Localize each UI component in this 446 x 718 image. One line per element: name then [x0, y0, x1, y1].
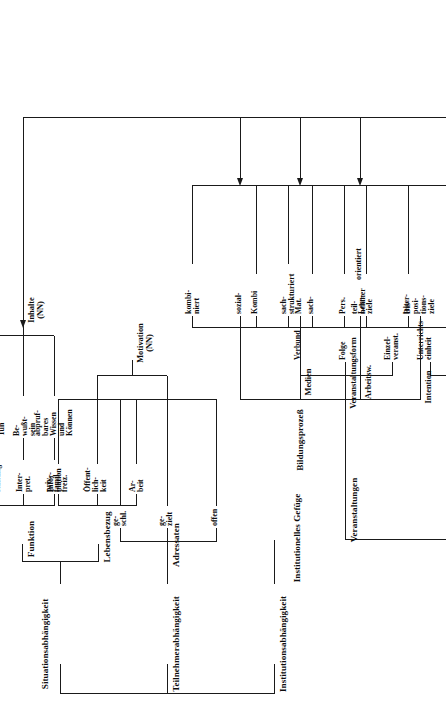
intention-leaf-2 [420, 316, 421, 328]
leaf-arbeitsweise-teilnehmer: teil- nehmer [351, 288, 367, 314]
gefuege-spine [345, 539, 446, 540]
lebensbezug-box-run-2 [97, 400, 98, 464]
sozialform-box-run-3 [192, 186, 193, 264]
node-funktion: Funktion [27, 504, 36, 574]
feedback-arrow-head-3 [357, 178, 363, 186]
node-veranstaltungen: Veranstaltungen [350, 460, 359, 560]
funktion-run-1 [54, 438, 55, 460]
leaf-sozialform-kombiniert: kombi- niert [185, 290, 201, 314]
node-intention: Intention [425, 352, 434, 422]
leaf-funktion-gestaltung: Ge- staltung [0, 465, 2, 492]
veranstaltungsform-leaf-1 [392, 362, 393, 376]
leaf-medien-pers: Pers. [339, 297, 347, 314]
adressaten-box-run-1 [216, 400, 217, 506]
arbeitsweise-leaf-1 [408, 316, 409, 328]
leaf-adressaten-gezielt: ge- zielt [158, 512, 174, 526]
feedback-arrow-line-4 [300, 118, 301, 178]
adressaten-box-run-3 [120, 400, 121, 506]
link-adressaten [167, 542, 168, 584]
lebensbezug-leaf-2 [97, 494, 98, 506]
bildungsprozess-branch-intention [420, 386, 421, 400]
leaf-sozialform-sozial: sozial- [235, 293, 243, 314]
leaf-lebensbezug-oeffentlichkeit: Öffent- lich- keit [84, 467, 108, 492]
arbeitsweise-box-run-1 [408, 186, 409, 274]
node-veranstaltungsform: Veranstaltungsform [350, 318, 359, 428]
node-teilnehmerabhaengigkeit: Teilnehmerabhängigkeit [172, 584, 181, 704]
veranstaltungsform-bracket [300, 375, 392, 376]
medien-run [300, 328, 301, 386]
medien-leaf-1 [344, 316, 345, 328]
diagram-canvas: Institutionsabhängigkeit Teilnehmerabhän… [0, 0, 446, 718]
motivation-out-lebensbezug [97, 376, 98, 400]
funktion-leaf-2 [23, 494, 24, 506]
situation-branch-funktion [22, 544, 23, 562]
adressaten-box-run-2 [167, 400, 168, 506]
leaf-inhalte-bewusstsein: Be- wußt- sein [13, 416, 37, 436]
leaf-inhalte-kreatives: Krea- tives Tun [0, 416, 6, 436]
motivation-out-adressaten [167, 376, 168, 400]
leaf-lebensbezug-arbeit: Ar- beit [129, 479, 145, 492]
feedback-arrow-head-2 [237, 178, 243, 186]
sozialform-leaf-1 [288, 316, 289, 328]
leaf-inhalte-wissen: abpruf- bares Wissen und Können [34, 409, 74, 436]
link-gefuege-in [274, 540, 275, 560]
adressaten-leaf-3 [120, 528, 121, 542]
leaf-arbeitsweise-leiter: leiter- [403, 294, 411, 314]
intention-run [420, 328, 421, 386]
sozialform-box-run-1 [288, 186, 289, 264]
inhalte-join [0, 335, 54, 336]
sozialform-run [240, 328, 241, 386]
medien-box-run-1 [344, 186, 345, 274]
inhalte-run-1 [54, 336, 55, 396]
leaf-veranstaltungsform-folge: Folge [339, 342, 347, 360]
leaf-funktion-interpret: Inter- pret. [16, 473, 32, 492]
arbeitsweise-box-run-3 [312, 186, 313, 274]
leaf-adressaten-geschl: ge- schl. [112, 511, 128, 526]
leaf-funktion-information: Infor- mation [47, 468, 63, 492]
bildungsprozess-branch-medien [300, 386, 301, 400]
arbeitsweise-run [360, 328, 361, 386]
leaf-arbeitsweise-sach: sach- [307, 296, 315, 314]
funktion-leaf-1 [54, 494, 55, 506]
medien-leaf-2 [300, 316, 301, 328]
root-branch-teilnehmer [167, 664, 168, 694]
node-arbeitsweise: Arbeitsw. [365, 352, 374, 412]
veranstaltungsform-leaf-2 [345, 362, 346, 376]
inhalte-run-2 [23, 336, 24, 396]
feedback-arrow-line-1 [23, 118, 24, 320]
link-institution-gefuege [274, 560, 275, 584]
adressaten-bracket [120, 541, 216, 542]
feedback-arrow-line-2 [240, 118, 241, 178]
gefuege-branch-veranstaltungen [345, 518, 346, 540]
node-bildungsprozess: Bildungsprozeß [296, 390, 305, 490]
feedback-arrow-head-4 [297, 178, 303, 186]
bildungsprozess-branch-sozialform [240, 386, 241, 400]
leaf-sozialform-sachstrukturiert: sach- strukturiert [280, 274, 296, 314]
leaf-medien-kombi: Kombi [251, 291, 259, 314]
node-inhalte-group: Inhalte (NN) [28, 280, 45, 340]
node-institutionelles-gefuege: Institutionelles Gefüge [293, 478, 302, 598]
leaf-arbeitsweise-suffix: orientiert [355, 248, 363, 280]
adressaten-leaf-1 [216, 528, 217, 542]
node-institutionsabhaengigkeit: Institutionsabhängigkeit [279, 584, 288, 704]
lebensbezug-box-run-1 [136, 400, 137, 464]
lebensbezug-leaf-1 [136, 494, 137, 506]
leaf-veranstaltungsform-einzel: Einzel- veranst. [384, 333, 400, 360]
rotated-diagram-layer: Institutionsabhängigkeit Teilnehmerabhän… [0, 0, 446, 718]
leaf-medien-mat: Mat. [295, 298, 303, 314]
adressaten-leaf-2 [167, 528, 168, 542]
link-veranstaltungsform-run [345, 376, 346, 518]
sozialform-leaf-3 [192, 316, 193, 328]
feedback-arrow-line-3 [360, 118, 361, 178]
arbeitsweise-leaf-2 [360, 316, 361, 328]
node-motivation-group: Motivation (NN) [137, 308, 154, 378]
motivation-out [132, 360, 133, 376]
feedback-bus [23, 117, 446, 118]
intention-box-run-3 [366, 186, 367, 274]
feedback-arrow-head-1 [20, 320, 26, 328]
bildungsprozess-branch-arbeitsw [360, 386, 361, 400]
root-branch-situation [60, 664, 61, 694]
funktion-bracket [0, 505, 54, 506]
leaf-adressaten-offen: offen [211, 509, 219, 526]
link-situation-in [60, 562, 61, 584]
